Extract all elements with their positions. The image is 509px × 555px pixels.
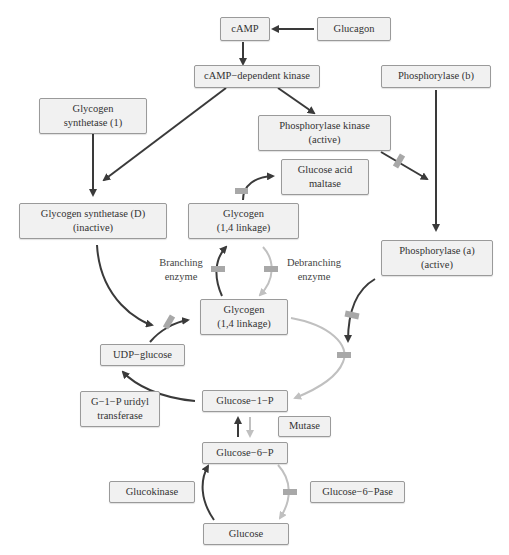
label-branching-enzyme: Branching enzyme — [152, 256, 210, 284]
node-glycogen-synthetase-d: Glycogen synthetase (D) (inactive) — [19, 203, 167, 239]
node-mutase: Mutase — [278, 416, 331, 437]
node-glycogen-mid-line2: (1,4 linkage) — [217, 317, 271, 331]
arrow-glucose-to-g6p — [203, 466, 214, 520]
node-maltase-line2: maltase — [309, 177, 341, 191]
node-glycogen-top: Glycogen (1,4 linkage) — [188, 203, 299, 239]
blocker-udp — [163, 314, 175, 329]
arrow-glycogen-to-maltase — [243, 176, 273, 200]
arrow-phos-a-to-pathway — [348, 279, 375, 341]
blocker-phos-kinase — [393, 153, 405, 168]
node-glucose: Glucose — [203, 523, 289, 545]
node-camp-kinase-label: cAMP−dependent kinase — [204, 69, 310, 83]
diagram-canvas: cAMP Glucagon cAMP−dependent kinase Phos… — [0, 0, 509, 555]
node-udp-glucose-label: UDP−glucose — [113, 348, 172, 362]
arrow-udp-to-glycogen — [150, 320, 188, 342]
label-branching-line1: Branching — [152, 256, 210, 270]
node-mutase-label: Mutase — [289, 419, 320, 433]
node-phosphorylase-b-label: Phosphorylase (b) — [398, 69, 474, 83]
node-phosphorylase-a: Phosphorylase (a) (active) — [381, 240, 493, 276]
node-g6pase-label: Glucose−6−Pase — [322, 485, 393, 499]
blocker-glycogen-g1p — [337, 352, 351, 358]
blocker-debranching — [264, 266, 278, 272]
blocker-maltase — [235, 188, 248, 194]
node-camp-dependent-kinase: cAMP−dependent kinase — [194, 65, 320, 88]
label-debranching-line2: enzyme — [280, 270, 348, 284]
node-phos-a-line1: Phosphorylase (a) — [399, 244, 475, 258]
blocker-phos-a-arrow — [345, 311, 360, 320]
arrow-kinase-to-phos-kinase — [278, 88, 314, 113]
node-glycogen-top-line1: Glycogen — [223, 207, 264, 221]
node-transferase-line1: G−1−P uridyl — [91, 395, 149, 409]
node-phos-a-line2: (active) — [421, 258, 453, 272]
node-g1p-label: Glucose−1−P — [216, 394, 273, 408]
blocker-g6pase — [283, 489, 297, 495]
arrow-g6p-to-glucose — [278, 465, 289, 518]
node-glycogen-synthetase-1: Glycogen synthetase (1) — [39, 98, 147, 134]
label-debranching-line1: Debranching — [280, 256, 348, 270]
node-glucagon: Glucagon — [317, 17, 391, 41]
node-glucose-6-p: Glucose−6−P — [202, 442, 288, 464]
arrow-phos-kinase-to-phos-a — [381, 152, 427, 179]
node-camp: cAMP — [220, 17, 270, 41]
arrow-glycogen-to-g1p — [291, 318, 344, 398]
arrow-branching — [216, 247, 226, 296]
node-glucose-acid-maltase: Glucose acid maltase — [281, 159, 369, 195]
node-glucokinase: Glucokinase — [109, 481, 195, 503]
arrow-synthetase-d-to-glycogen — [97, 245, 152, 325]
node-glucose-6-pase: Glucose−6−Pase — [310, 481, 405, 503]
node-g1p-uridyl-transferase: G−1−P uridyl transferase — [80, 391, 160, 427]
blocker-branching — [211, 266, 225, 272]
node-udp-glucose: UDP−glucose — [100, 344, 185, 366]
label-branching-line2: enzyme — [152, 270, 210, 284]
node-synthetase-d-line1: Glycogen synthetase (D) — [41, 207, 145, 221]
node-maltase-line1: Glucose acid — [298, 163, 353, 177]
node-transferase-line2: transferase — [97, 409, 142, 423]
node-synthetase-d-line2: (inactive) — [73, 221, 113, 235]
node-phosphorylase-kinase: Phosphorylase kinase (active) — [258, 115, 391, 151]
node-camp-label: cAMP — [231, 22, 258, 36]
node-glucose-1-p: Glucose−1−P — [202, 390, 288, 412]
node-glycogen-top-line2: (1,4 linkage) — [217, 221, 271, 235]
arrow-debranching — [260, 247, 272, 295]
node-glucagon-label: Glucagon — [334, 22, 375, 36]
node-synthetase-1-line2: synthetase (1) — [64, 116, 123, 130]
node-glucokinase-label: Glucokinase — [126, 485, 179, 499]
node-phos-kinase-line2: (active) — [308, 133, 340, 147]
node-phosphorylase-b: Phosphorylase (b) — [381, 65, 491, 88]
node-glycogen-mid-line1: Glycogen — [224, 303, 265, 317]
node-phos-kinase-line1: Phosphorylase kinase — [279, 119, 370, 133]
node-synthetase-1-line1: Glycogen — [73, 102, 114, 116]
node-glycogen-mid: Glycogen (1,4 linkage) — [200, 299, 288, 335]
node-glucose-label: Glucose — [229, 527, 263, 541]
label-debranching-enzyme: Debranching enzyme — [280, 256, 348, 284]
node-g6p-label: Glucose−6−P — [216, 446, 273, 460]
